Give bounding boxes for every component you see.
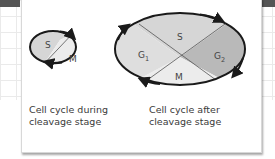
phase-label-s: S — [45, 40, 51, 50]
cell-cycle-diagrams: S M S G1 G2 M — [0, 0, 275, 159]
phase-label-m: M — [175, 72, 183, 82]
right-caption: Cell cycle after cleavage stage — [149, 104, 221, 128]
cycle-arrow — [48, 63, 62, 64]
phase-label-s: S — [177, 32, 183, 42]
right-cell-cycle: S G1 G2 M — [100, 0, 260, 100]
phase-label-m: M — [69, 54, 77, 64]
caption-line: cleavage stage — [29, 116, 108, 128]
caption-line: Cell cycle during — [29, 104, 108, 116]
left-caption: Cell cycle during cleavage stage — [29, 104, 108, 128]
caption-line: cleavage stage — [149, 116, 221, 128]
caption-line: Cell cycle after — [149, 104, 221, 116]
left-cell-cycle: S M — [20, 20, 100, 70]
